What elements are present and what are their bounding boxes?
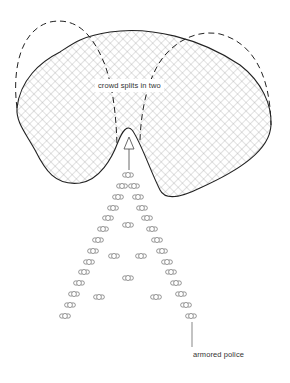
police-unit-icon (123, 222, 134, 227)
police-unit-icon (147, 226, 158, 231)
police-unit-icon (152, 237, 163, 242)
police-unit-icon (103, 215, 114, 220)
police-unit-icon (133, 194, 144, 199)
police-unit-icon (79, 269, 90, 274)
police-unit-icon (151, 294, 162, 299)
police-unit-icon (94, 294, 105, 299)
police-unit-icon (137, 205, 148, 210)
police-unit-icon (69, 291, 80, 296)
police-unit-icon (88, 248, 99, 253)
police-unit-icon (117, 183, 128, 188)
police-unit-icon (109, 253, 120, 258)
police-unit-icon (123, 275, 134, 280)
push-arrow (124, 137, 134, 170)
police-unit-icon (166, 269, 177, 274)
police-unit-icon (65, 302, 76, 307)
armored-police-label: armored police (193, 350, 244, 359)
crowd-dispersal-diagram (0, 0, 290, 383)
crowd-area (17, 30, 271, 196)
police-unit-icon (60, 313, 71, 318)
police-unit-icon (181, 302, 192, 307)
police-unit-icon (157, 248, 168, 253)
police-unit-icon (186, 313, 197, 318)
police-unit-icon (142, 215, 153, 220)
crowd-splits-label: crowd splits in two (95, 79, 164, 92)
police-unit-icon (162, 259, 173, 264)
police-unit-icon (123, 172, 134, 177)
police-unit-icon (129, 183, 140, 188)
police-unit-icon (93, 237, 104, 242)
police-unit-icon (98, 226, 109, 231)
police-unit-icon (108, 205, 119, 210)
police-unit-icon (84, 259, 95, 264)
police-unit-icon (171, 280, 182, 285)
police-unit-icon (136, 253, 147, 258)
police-unit-icon (176, 291, 187, 296)
police-unit-icon (113, 194, 124, 199)
police-unit-icon (74, 280, 85, 285)
